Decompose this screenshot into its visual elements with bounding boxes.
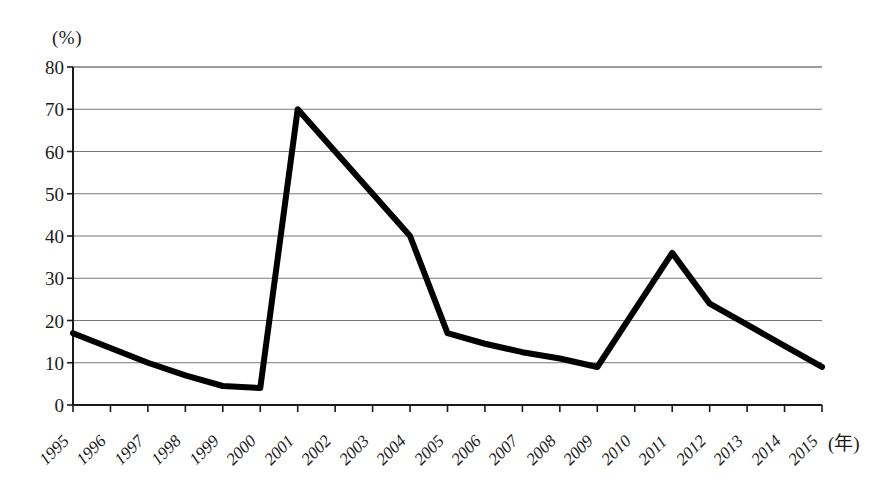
x-axis-tick-label: 2012 bbox=[673, 432, 709, 468]
x-axis-tick-label: 2001 bbox=[261, 432, 297, 468]
x-axis-tick-label: 2009 bbox=[560, 432, 596, 468]
x-axis-tick-label: 2006 bbox=[448, 432, 484, 468]
y-axis-tick-label: 30 bbox=[24, 269, 64, 288]
x-axis-tick-label: 1997 bbox=[111, 432, 147, 468]
x-axis-tick-labels: 1995199619971998199920002001200220032004… bbox=[73, 405, 822, 493]
line-chart-svg bbox=[73, 67, 822, 405]
x-axis-tick-label: 1995 bbox=[36, 432, 72, 468]
y-axis-tick-label: 0 bbox=[24, 396, 64, 415]
x-axis-tick-label: 2011 bbox=[635, 433, 670, 468]
y-axis-tick-label: 40 bbox=[24, 227, 64, 246]
axis-ticks bbox=[67, 67, 822, 412]
x-axis-tick-label: 2005 bbox=[410, 432, 446, 468]
x-axis-tick-label: 2004 bbox=[373, 432, 409, 468]
x-axis-tick-label: 2003 bbox=[336, 432, 372, 468]
y-axis-tick-label: 10 bbox=[24, 353, 64, 372]
x-axis-tick-label: 2015 bbox=[785, 432, 821, 468]
x-axis-tick-label: 1996 bbox=[73, 432, 109, 468]
x-axis-tick-label: 2000 bbox=[223, 432, 259, 468]
y-axis-tick-label: 50 bbox=[24, 184, 64, 203]
x-axis-tick-label: 2002 bbox=[298, 432, 334, 468]
y-axis-tick-labels: 01020304050607080 bbox=[20, 67, 64, 405]
y-axis-tick-label: 70 bbox=[24, 100, 64, 119]
y-axis-unit-label: (%) bbox=[52, 27, 82, 49]
x-axis-tick-label: 2010 bbox=[598, 432, 634, 468]
x-axis-tick-label: 2014 bbox=[748, 432, 784, 468]
y-axis-tick-label: 60 bbox=[24, 142, 64, 161]
x-axis-tick-label: 2013 bbox=[710, 432, 746, 468]
x-axis-unit-label: (年) bbox=[828, 428, 860, 455]
plot-area bbox=[73, 67, 822, 405]
y-axis-tick-label: 20 bbox=[24, 311, 64, 330]
x-axis-tick-label: 2008 bbox=[523, 432, 559, 468]
gridlines bbox=[73, 67, 822, 363]
x-axis-tick-label: 1999 bbox=[186, 432, 222, 468]
y-axis-tick-label: 80 bbox=[24, 58, 64, 77]
x-axis-tick-label: 2007 bbox=[485, 432, 521, 468]
x-axis-tick-label: 1998 bbox=[148, 432, 184, 468]
chart-figure: (%) (年) 01020304050607080 19951996199719… bbox=[0, 0, 894, 493]
